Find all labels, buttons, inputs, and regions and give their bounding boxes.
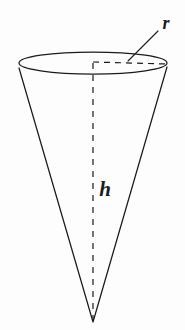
cone-diagram-svg: r h: [0, 0, 185, 330]
radius-label: r: [162, 13, 170, 33]
cone-figure: r h: [0, 0, 185, 330]
height-label: h: [99, 177, 111, 201]
